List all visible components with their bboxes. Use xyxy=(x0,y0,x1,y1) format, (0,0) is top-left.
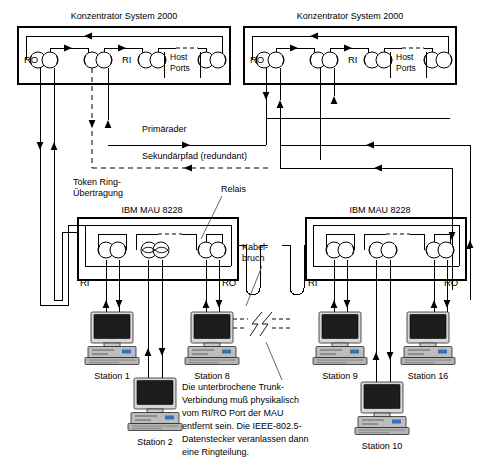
station-1-label: Station 1 xyxy=(94,371,130,381)
primary-right-out-arrow xyxy=(263,92,270,100)
concentrator-right-label-host: Host xyxy=(396,52,414,62)
transmission-label-line1: Token Ring- xyxy=(73,177,121,187)
trunk-right-downlinks xyxy=(263,68,450,160)
mau-left-label-ri: RI xyxy=(80,277,90,288)
concentrator-left-hop-1-arrow xyxy=(64,45,72,52)
mau-right-port-2[interactable] xyxy=(369,242,397,258)
secondary-right-in-arrow xyxy=(277,100,284,108)
note-line-4: entfernt sein. Die IEEE-802.5- xyxy=(182,421,302,431)
secondary-path-group: Sekundärpfad (redundant) xyxy=(92,108,452,290)
concentrator-right-return-arrow xyxy=(310,33,318,40)
concentrator-right-port-2[interactable] xyxy=(310,52,338,68)
mau-left-label-ro: RO xyxy=(222,277,236,288)
concentrator-right-port-host[interactable] xyxy=(424,52,452,68)
station-16[interactable]: Station 16 xyxy=(401,312,455,381)
trunk-right-ri-arrow xyxy=(331,96,338,104)
cable-break-label-line1: Kabel- xyxy=(242,242,268,252)
lobe-s9-down-arrow xyxy=(331,300,338,308)
lobe-s9-up-arrow xyxy=(344,300,351,308)
concentrator-left-hop-2-arrow xyxy=(118,45,126,52)
concentrator-right-port-ri[interactable] xyxy=(364,52,392,68)
station-16-label: Station 16 xyxy=(408,371,449,381)
primary-right-out xyxy=(266,68,450,118)
concentrator-left-title: Konzentrator System 2000 xyxy=(71,11,178,21)
concentrator-right-label-ports: Ports xyxy=(396,63,416,73)
concentrator-right-title: Konzentrator System 2000 xyxy=(297,11,404,21)
concentrator-left-label-host: Host xyxy=(170,52,188,62)
station-9[interactable]: Station 9 xyxy=(313,312,367,381)
concentrator-left-label-ports: Ports xyxy=(170,63,190,73)
mau-right: IBM MAU 8228 RI RO xyxy=(282,205,473,300)
lobe-s10-down-arrow xyxy=(373,352,380,360)
station-10[interactable]: Station 10 xyxy=(355,382,409,451)
secondary-path-left-arrow-head xyxy=(184,165,192,172)
lobe-s16-down-arrow xyxy=(431,300,438,308)
note-line-1: Die unterbrochene Trunk- xyxy=(182,382,284,392)
mau-left-port-1[interactable] xyxy=(98,242,126,258)
station-10-label: Station 10 xyxy=(362,441,403,451)
station-8[interactable]: Station 8 xyxy=(185,312,239,381)
concentrator-left: Konzentrator System 2000 RO R xyxy=(18,11,230,84)
mau-right-primary-arrow xyxy=(467,240,474,248)
secondary-left-arrow xyxy=(89,120,96,128)
note-line-3: vom RI/RO Port der MAU xyxy=(182,408,284,418)
lobe-s1-up-arrow xyxy=(116,300,123,308)
lobe-s1-down-arrow xyxy=(103,300,110,308)
station-8-label: Station 8 xyxy=(194,371,230,381)
mau-left-hop-3 xyxy=(182,234,196,250)
primary-path-right-arrow-head xyxy=(366,142,374,149)
explanatory-note: Die unterbrochene Trunk- Verbindung muß … xyxy=(182,382,309,457)
concentrator-right-label-ro: RO xyxy=(250,54,264,65)
transmission-label-line2: Übertragung xyxy=(73,188,123,198)
lobe-s8-up-arrow xyxy=(216,300,223,308)
mau-left-port-2[interactable] xyxy=(141,242,169,258)
concentrator-left-label-ro: RO xyxy=(24,54,38,65)
mau-right-label-ro: RO xyxy=(444,277,458,288)
station-1[interactable]: Station 1 xyxy=(85,312,139,381)
concentrator-left-port-host[interactable] xyxy=(198,52,226,68)
trunk-left-ri-arrow xyxy=(51,142,58,150)
lightning-icon xyxy=(250,312,272,336)
cable-break-note-leader xyxy=(266,342,282,380)
primary-path-label: Primärader xyxy=(142,124,187,134)
mau-right-port-relay[interactable] xyxy=(426,242,454,258)
concentrator-left-label-ri: RI xyxy=(122,54,132,65)
concentrator-left-port-2[interactable] xyxy=(84,52,112,68)
secondary-path-right-arrow-head xyxy=(374,165,382,172)
concentrator-right: Konzentrator System 2000 RO RI Host Port… xyxy=(244,11,456,84)
concentrator-right-hop-1-arrow xyxy=(290,45,298,52)
mau-left-title: IBM MAU 8228 xyxy=(121,205,182,215)
secondary-path-label: Sekundärpfad (redundant) xyxy=(142,151,247,161)
mau-right-label-ri: RI xyxy=(308,277,318,288)
trunk-left-ro-arrow xyxy=(37,142,44,150)
mau-right-ri-loopback xyxy=(282,245,306,295)
note-line-2: Verbindung muß physikalisch xyxy=(182,395,299,405)
relay-annotation: Relais xyxy=(201,184,247,239)
concentrator-left-port-ri[interactable] xyxy=(138,52,166,68)
concentrator-right-label-ri: RI xyxy=(348,54,358,65)
primary-path-left-arrow-head xyxy=(182,142,190,149)
transmission-annotation: Token Ring- Übertragung xyxy=(73,177,123,198)
station-2[interactable]: Station 2 xyxy=(128,378,182,447)
note-line-6: eine Ringteilung. xyxy=(182,447,249,457)
station-9-label: Station 9 xyxy=(322,371,358,381)
concentrator-left-return-arrow xyxy=(84,33,92,40)
concentrator-right-hop-2-arrow xyxy=(344,45,352,52)
mau-left-ri-trunk-out xyxy=(54,232,78,300)
mau-left: IBM MAU 8228 RI RO xyxy=(40,205,268,305)
relay-label: Relais xyxy=(221,184,247,194)
mau-right-ro-trunk xyxy=(466,248,470,300)
station-2-label: Station 2 xyxy=(137,437,173,447)
primary-return-left-arrow xyxy=(105,120,112,128)
lobe-s2-down-arrow xyxy=(145,348,152,356)
cable-break-label-line2: bruch xyxy=(242,253,265,263)
mau-left-port-relay[interactable] xyxy=(198,242,226,258)
lobe-s2-up-arrow xyxy=(159,348,166,356)
token-ring-diagram-canvas: Konzentrator System 2000 RO R xyxy=(0,0,486,473)
lobe-s10-up-arrow xyxy=(387,352,394,360)
lobe-s8-down-arrow xyxy=(203,300,210,308)
note-line-5: Datenstecker veranlassen dann xyxy=(182,434,309,444)
mau-right-port-1[interactable] xyxy=(326,242,354,258)
mau-right-hop-3 xyxy=(410,234,424,250)
mau-right-title: IBM MAU 8228 xyxy=(349,205,410,215)
